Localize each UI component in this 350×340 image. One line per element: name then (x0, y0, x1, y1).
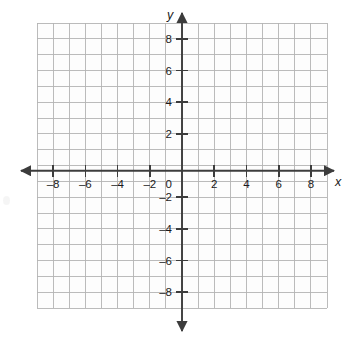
y-tick-label: –8 (159, 286, 172, 298)
y-tick-label: 6 (166, 65, 172, 77)
y-tick-label: –4 (159, 223, 172, 235)
y-tick-label: 2 (166, 128, 172, 140)
x-tick-label: 2 (211, 178, 217, 190)
x-tick-label: 4 (243, 178, 250, 190)
x-tick-label: –2 (143, 178, 156, 190)
y-tick-label: –6 (159, 255, 172, 267)
x-tick-label: 8 (308, 178, 314, 190)
x-tick-label: 6 (275, 178, 281, 190)
x-tick-label: –6 (79, 178, 92, 190)
y-tick-label: 4 (166, 96, 173, 108)
y-axis-label: y (166, 8, 174, 22)
coordinate-grid-svg: –8 –6 –4 –2 2 4 6 8 8 6 4 2 –2 –4 –6 –8 … (0, 0, 350, 340)
y-tick-label: 8 (166, 33, 172, 45)
x-tick-label: –4 (111, 178, 124, 190)
coordinate-plane-figure: –8 –6 –4 –2 2 4 6 8 8 6 4 2 –2 –4 –6 –8 … (0, 0, 350, 340)
origin-label: 0 (166, 178, 172, 190)
x-tick-label: –8 (47, 178, 60, 190)
y-tick-label: –2 (159, 191, 172, 203)
x-axis-label: x (334, 175, 342, 189)
